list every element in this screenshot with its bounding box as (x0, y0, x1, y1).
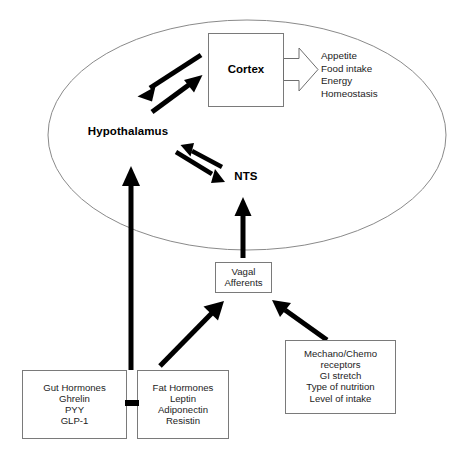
gut-hormones-text: Gut Hormones Ghrelin PYY GLP-1 (22, 382, 127, 427)
mechano-chemo-title: Mechano/Chemo (285, 348, 396, 359)
output-appetite: Appetite (321, 50, 441, 63)
arrow-mechano-chemo-to-vagal (272, 300, 327, 340)
arrow-fat-hormones-to-vagal (160, 301, 224, 366)
arrow-nts-to-hypothalamus (181, 143, 223, 167)
fat-hormones-title: Fat Hormones (137, 382, 229, 393)
fat-hormone-resistin: Resistin (137, 415, 229, 426)
mechano-chemo-level-of-intake: Level of intake (285, 393, 396, 404)
arrow-hormones-to-hypothalamus (122, 166, 140, 370)
hypothalamus-label: Hypothalamus (74, 125, 182, 138)
gut-brain-axis-diagram: Hypothalamus NTS Cortex Appetite Food in… (0, 0, 462, 469)
output-homeostasis: Homeostasis (321, 88, 441, 101)
fat-hormone-adiponectin: Adiponectin (137, 404, 229, 415)
gut-hormone-glp1: GLP-1 (22, 415, 127, 426)
output-food-intake: Food intake (321, 63, 441, 76)
cortex-outputs-list: Appetite Food intake Energy Homeostasis (321, 50, 441, 101)
fat-hormones-text: Fat Hormones Leptin Adiponectin Resistin (137, 382, 229, 427)
vagal-line-2: Afferents (215, 277, 272, 288)
cortex-output-block-arrow (284, 48, 319, 91)
fat-hormone-leptin: Leptin (137, 393, 229, 404)
arrow-vagal-to-nts (235, 197, 252, 258)
gut-hormone-ghrelin: Ghrelin (22, 393, 127, 404)
mechano-chemo-text: Mechano/Chemo receptors GI stretch Type … (285, 348, 396, 404)
mechano-chemo-receptors: receptors (285, 359, 396, 370)
output-energy: Energy (321, 75, 441, 88)
gut-hormones-title: Gut Hormones (22, 382, 127, 393)
mechano-chemo-gi-stretch: GI stretch (285, 370, 396, 381)
vagal-afferents-text: Vagal Afferents (215, 266, 272, 288)
vagal-line-1: Vagal (215, 266, 272, 277)
mechano-chemo-type-of-nutrition: Type of nutrition (285, 381, 396, 392)
cortex-label: Cortex (208, 63, 284, 76)
gut-hormone-pyy: PYY (22, 404, 127, 415)
nts-label: NTS (225, 170, 267, 183)
